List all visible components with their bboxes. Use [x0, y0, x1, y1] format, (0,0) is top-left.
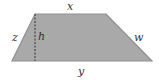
trapezoid-diagram: x z h w y: [0, 0, 159, 80]
label-left-side: z: [11, 31, 18, 44]
label-right-side: w: [134, 31, 144, 44]
trapezoid-shape: [12, 14, 152, 61]
label-height: h: [38, 30, 45, 43]
label-bottom-side: y: [77, 65, 85, 78]
label-top-side: x: [67, 0, 74, 13]
